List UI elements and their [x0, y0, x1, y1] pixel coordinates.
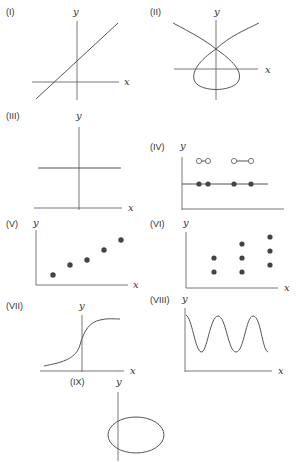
open-point — [196, 158, 201, 163]
data-point — [239, 241, 244, 246]
data-point — [239, 255, 244, 260]
data-point — [84, 257, 89, 262]
data-point — [211, 255, 216, 260]
graphs-figure: (I) y x (II) y x (III) y x (IV) y — [0, 0, 296, 462]
panel-label: (IX) — [70, 377, 85, 387]
data-point — [101, 247, 106, 252]
panel-label: (III) — [6, 111, 20, 121]
data-point — [118, 237, 123, 242]
x-axis-label: x — [284, 282, 290, 293]
closed-point — [196, 181, 201, 186]
y-axis-label: y — [78, 300, 85, 311]
open-point — [231, 158, 236, 163]
x-axis-label: x — [130, 365, 136, 376]
panel-label: (II) — [150, 7, 161, 17]
y-axis-label: y — [32, 217, 39, 228]
panel-iii: (III) y x — [6, 110, 134, 213]
panel-i: (I) y x — [6, 6, 130, 100]
panel-label: (IV) — [150, 142, 165, 152]
ellipse-curve — [108, 417, 164, 453]
panel-label: (VI) — [150, 219, 165, 229]
data-point — [239, 269, 244, 274]
data-point — [267, 262, 272, 267]
data-point — [67, 262, 72, 267]
open-point — [248, 158, 253, 163]
data-point — [211, 269, 216, 274]
x-axis-label: x — [278, 365, 284, 376]
panel-label: (I) — [6, 7, 15, 17]
data-point — [267, 234, 272, 239]
y-axis-label: y — [115, 376, 122, 387]
x-axis-label: x — [265, 64, 271, 75]
open-point — [205, 158, 210, 163]
panel-label: (VII) — [6, 301, 23, 311]
panel-ix: (IX) y — [70, 376, 164, 461]
x-axis-label: x — [128, 202, 134, 213]
wave-curve — [186, 315, 268, 352]
closed-point — [205, 181, 210, 186]
y-axis-label: y — [182, 217, 189, 228]
closed-point — [231, 181, 236, 186]
y-axis-label: y — [213, 6, 220, 17]
panel-iv: (IV) y — [150, 140, 284, 210]
y-axis-label: y — [75, 110, 82, 121]
x-axis-label: x — [124, 76, 130, 87]
closed-point — [248, 181, 253, 186]
x-axis-label: x — [133, 279, 139, 290]
panel-v: (V) y x — [6, 217, 139, 290]
panel-vi: (VI) y x — [150, 217, 290, 293]
panel-label: (VIII) — [150, 295, 170, 305]
y-axis-label: y — [181, 293, 188, 304]
data-point — [267, 248, 272, 253]
panel-viii: (VIII) y x — [150, 293, 284, 376]
y-axis-label: y — [72, 6, 79, 17]
panel-vii: (VII) y x — [6, 300, 136, 376]
y-axis-label: y — [179, 140, 186, 151]
panel-ii: (II) y x — [150, 6, 271, 100]
data-point — [50, 272, 55, 277]
panel-label: (V) — [6, 219, 18, 229]
